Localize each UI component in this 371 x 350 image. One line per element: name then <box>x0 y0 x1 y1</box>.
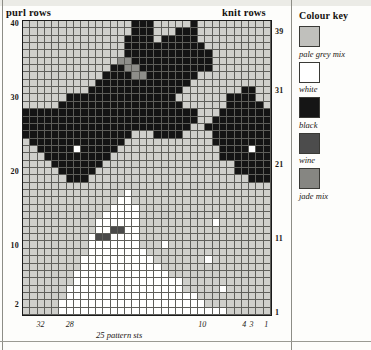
grid-cell <box>147 241 154 248</box>
grid-cell <box>96 197 103 204</box>
grid-cell <box>45 264 52 271</box>
grid-cell <box>227 278 234 285</box>
grid-cell <box>118 300 125 307</box>
grid-cell <box>38 50 45 57</box>
grid-cell <box>45 21 52 28</box>
grid-cell <box>176 72 183 79</box>
grid-cell <box>213 36 220 43</box>
grid-cell <box>23 139 30 146</box>
grid-cell <box>169 161 176 168</box>
grid-cell <box>242 94 249 101</box>
grid-cell <box>162 205 169 212</box>
grid-cell <box>235 197 242 204</box>
grid-cell <box>154 28 161 35</box>
grid-cell <box>227 161 234 168</box>
grid-cell <box>220 256 227 263</box>
grid-cell <box>74 227 81 234</box>
grid-cell <box>242 80 249 87</box>
grid-cell <box>111 278 118 285</box>
colour-swatch-g <box>299 26 320 47</box>
grid-cell <box>220 153 227 160</box>
grid-cell <box>220 94 227 101</box>
grid-cell <box>249 256 256 263</box>
grid-cell <box>242 293 249 300</box>
grid-cell <box>191 117 198 124</box>
grid-cell <box>169 94 176 101</box>
grid-cell <box>103 219 110 226</box>
grid-cell <box>147 72 154 79</box>
grid-cell <box>220 28 227 35</box>
grid-cell <box>111 72 118 79</box>
row-number-right-39: 39 <box>275 27 295 36</box>
grid-cell <box>227 117 234 124</box>
grid-cell <box>89 146 96 153</box>
grid-cell <box>235 183 242 190</box>
grid-cell <box>38 249 45 256</box>
grid-cell <box>45 109 52 116</box>
grid-cell <box>118 28 125 35</box>
grid-cell <box>183 117 190 124</box>
grid-cell <box>220 21 227 28</box>
grid-cell <box>213 168 220 175</box>
grid-cell <box>176 278 183 285</box>
grid-cell <box>125 146 132 153</box>
grid-cell <box>227 175 234 182</box>
grid-cell <box>183 153 190 160</box>
grid-cell <box>169 146 176 153</box>
grid-cell <box>125 131 132 138</box>
grid-cell <box>103 175 110 182</box>
grid-cell <box>227 249 234 256</box>
grid-cell <box>38 293 45 300</box>
grid-cell <box>162 264 169 271</box>
grid-cell <box>198 212 205 219</box>
grid-cell <box>249 234 256 241</box>
grid-cell <box>118 205 125 212</box>
grid-cell <box>162 139 169 146</box>
grid-cell <box>154 212 161 219</box>
grid-cell <box>103 271 110 278</box>
grid-cell <box>132 43 139 50</box>
grid-cell <box>169 227 176 234</box>
grid-cell <box>242 58 249 65</box>
grid-cell <box>111 94 118 101</box>
grid-cell <box>213 153 220 160</box>
grid-cell <box>81 190 88 197</box>
grid-cell <box>140 94 147 101</box>
grid-cell <box>52 109 59 116</box>
page-rule-bottom <box>0 341 371 342</box>
grid-cell <box>59 58 66 65</box>
grid-cell <box>154 278 161 285</box>
grid-cell <box>264 50 271 57</box>
grid-cell <box>213 286 220 293</box>
grid-cell <box>30 139 37 146</box>
grid-cell <box>235 87 242 94</box>
grid-cell <box>96 43 103 50</box>
grid-cell <box>235 249 242 256</box>
grid-cell <box>30 278 37 285</box>
grid-cell <box>38 146 45 153</box>
grid-cell <box>140 109 147 116</box>
grid-cell <box>147 87 154 94</box>
colour-key-entry-wine: wine <box>299 133 365 166</box>
grid-cell <box>227 308 234 315</box>
grid-cell <box>213 190 220 197</box>
grid-cell <box>162 168 169 175</box>
grid-cell <box>111 117 118 124</box>
grid-cell <box>191 109 198 116</box>
grid-cell <box>67 286 74 293</box>
grid-cell <box>147 58 154 65</box>
grid-cell <box>103 43 110 50</box>
grid-cell <box>59 161 66 168</box>
grid-cell <box>45 28 52 35</box>
grid-cell <box>176 234 183 241</box>
grid-cell <box>23 308 30 315</box>
grid-cell <box>147 271 154 278</box>
grid-cell <box>198 36 205 43</box>
grid-cell <box>96 36 103 43</box>
grid-cell <box>30 43 37 50</box>
grid-cell <box>45 256 52 263</box>
grid-cell <box>111 28 118 35</box>
stitch-number-4: 4 <box>242 320 246 329</box>
grid-cell <box>213 102 220 109</box>
colour-label-n: wine <box>299 155 365 165</box>
